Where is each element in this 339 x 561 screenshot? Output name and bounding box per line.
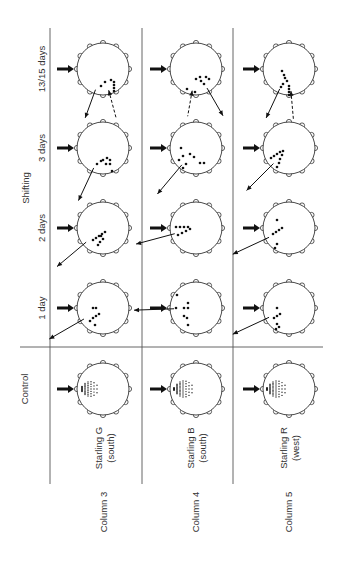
light-arrow-icon <box>57 144 74 152</box>
choice-dot <box>276 315 279 318</box>
cage-circle <box>77 202 129 254</box>
choice-dot <box>283 74 286 77</box>
choice-dot <box>278 229 281 232</box>
cage-circle <box>77 122 129 174</box>
choice-dot <box>272 233 275 236</box>
choice-dot <box>179 226 182 229</box>
choice-dot <box>98 313 101 316</box>
bird-direction-starling-g: (south) <box>105 433 116 463</box>
choice-dot <box>187 324 190 327</box>
choice-dot <box>199 76 202 79</box>
cage-c4-d2 <box>136 199 224 256</box>
choice-dot <box>276 153 279 156</box>
light-arrow-icon <box>57 65 74 73</box>
cage-c4-d13 <box>150 40 225 116</box>
cage-circle <box>263 202 315 254</box>
choice-dot <box>288 91 291 94</box>
cage-c4-d3 <box>150 119 225 194</box>
light-arrow-icon <box>243 224 260 232</box>
choice-dot <box>273 317 276 320</box>
choice-dot <box>278 162 281 165</box>
choice-dot <box>100 235 103 238</box>
cage-c5-d2 <box>233 199 318 256</box>
mean-direction-arrow-icon <box>57 242 86 266</box>
choice-dot <box>92 239 95 242</box>
choice-dot <box>195 78 198 81</box>
choice-dot <box>113 81 116 84</box>
choice-dot <box>270 157 273 160</box>
bird-label-starling-b: Starling B <box>185 427 196 468</box>
choice-dot <box>284 77 287 80</box>
cage-c5-d1 <box>233 279 318 336</box>
cage-c5-d13 <box>243 40 318 118</box>
cage-c3-ctrl <box>57 360 132 417</box>
mean-direction-arrow-icon <box>247 164 274 191</box>
column-label-4: Column 4 <box>190 492 201 533</box>
bird-direction-starling-b: (south) <box>197 433 208 463</box>
light-arrow-icon <box>243 65 260 73</box>
mean-direction-arrow-icon <box>233 237 269 254</box>
light-arrow-icon <box>150 144 167 152</box>
choice-dot <box>176 294 179 297</box>
choice-dot <box>274 247 277 250</box>
row-label-13-15-days: 13/15 days <box>36 46 47 93</box>
choice-dot <box>280 86 283 89</box>
choice-dot <box>183 315 186 318</box>
bird-label-starling-r: Starling R <box>278 427 289 469</box>
choice-dot <box>205 76 208 79</box>
choice-dot <box>94 324 97 327</box>
starling-orientation-figure: Shifting 13/15 days 3 days 2 days 1 day … <box>0 0 339 561</box>
mean-direction-arrow-icon <box>233 317 269 334</box>
light-arrow-icon <box>57 385 74 393</box>
cage-c5-ctrl <box>243 360 318 417</box>
choice-dot <box>104 81 107 84</box>
choice-dot <box>89 320 92 323</box>
choice-dot <box>203 83 206 86</box>
choice-dot <box>178 159 181 162</box>
choice-dot <box>185 163 188 166</box>
cage-circle <box>170 202 222 254</box>
column-label-5: Column 5 <box>283 492 294 533</box>
expected-direction-arrow-icon <box>108 90 116 117</box>
choice-dot <box>102 238 105 241</box>
choice-dot <box>175 226 178 229</box>
choice-dot <box>97 244 100 247</box>
choice-dot <box>186 88 189 91</box>
choice-dot <box>276 307 279 310</box>
choice-dot <box>199 162 202 165</box>
choice-dot <box>281 227 284 230</box>
cage-c3-d1 <box>49 279 131 339</box>
choice-dot <box>92 307 95 310</box>
choice-dot <box>102 159 105 162</box>
cage-circle <box>263 282 315 334</box>
row-label-control: Control <box>19 374 30 405</box>
cage-circle <box>170 282 222 334</box>
bird-direction-starling-r: (west) <box>290 435 301 461</box>
choice-dot <box>187 226 190 229</box>
cage-circle <box>170 122 222 174</box>
choice-dot <box>288 85 291 88</box>
choice-dot <box>95 315 98 318</box>
cage-c3-d13 <box>57 40 132 117</box>
choice-dot <box>273 155 276 158</box>
light-arrow-icon <box>150 224 167 232</box>
row-label-2-days: 2 days <box>36 214 47 242</box>
choice-dot <box>208 78 211 81</box>
choice-dot <box>286 80 289 83</box>
choice-dot <box>95 307 98 310</box>
choice-dot <box>194 91 197 94</box>
choice-dot <box>186 317 189 320</box>
choice-dot <box>95 237 98 240</box>
orientation-cages <box>49 40 317 417</box>
cage-circle <box>170 363 222 415</box>
light-arrow-icon <box>150 385 167 393</box>
choice-dot <box>288 88 291 91</box>
light-arrow-icon <box>243 385 260 393</box>
cage-circle <box>170 43 222 95</box>
choice-dot <box>276 243 279 246</box>
expected-direction-arrow-icon <box>289 91 293 119</box>
choice-dot <box>203 162 206 165</box>
row-label-1-day: 1 day <box>36 296 47 319</box>
mean-direction-arrow-icon <box>266 89 280 118</box>
choice-dot <box>200 80 203 83</box>
